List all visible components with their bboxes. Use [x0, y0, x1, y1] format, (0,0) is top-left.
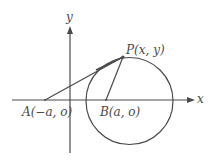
point-p-dot [121, 55, 124, 58]
y-axis-label: y [66, 11, 73, 23]
diagram-figure: y x P(x, y) A(−a, o) B(a, o) [0, 0, 211, 161]
y-axis-arrowhead-icon [67, 26, 73, 34]
diagram-canvas [0, 0, 211, 161]
point-a-label: A(−a, o) [22, 106, 72, 118]
x-axis-arrowhead-icon [187, 97, 195, 103]
point-p-label: P(x, y) [126, 44, 165, 56]
point-b-label: B(a, o) [100, 106, 140, 118]
x-axis-label: x [197, 93, 204, 105]
point-a-dot [44, 99, 46, 101]
point-b-dot [105, 99, 107, 101]
